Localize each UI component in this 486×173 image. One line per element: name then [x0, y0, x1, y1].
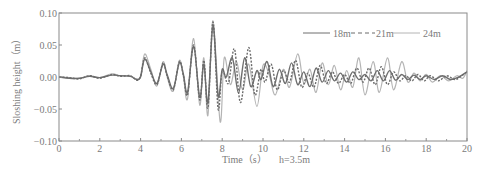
y-tick-label: 0.00	[40, 72, 58, 83]
x-tick-label: 18	[421, 143, 431, 154]
x-tick-label: 12	[299, 143, 309, 154]
x-axis-ticks: 02468101214161820	[57, 138, 473, 154]
legend-label-24m: 24m	[423, 28, 441, 39]
legend: 18m 21m 24m	[303, 28, 441, 39]
x-tick-label: 20	[462, 143, 472, 154]
x-tick-label: 14	[340, 143, 350, 154]
x-tick-label: 10	[258, 143, 268, 154]
x-tick-label: 0	[57, 143, 62, 154]
plot-series	[59, 21, 467, 123]
legend-label-18m: 18m	[333, 28, 351, 39]
y-tick-label: −0.05	[34, 104, 57, 115]
x-axis-label: Time（s）	[222, 154, 267, 165]
x-tick-label: 8	[220, 143, 225, 154]
sloshing-height-chart: 02468101214161820 0.100.050.00−0.05−0.10…	[0, 0, 486, 173]
y-axis-label: Sloshing height（m）	[11, 34, 22, 124]
x-tick-label: 2	[97, 143, 102, 154]
y-tick-label: 0.05	[40, 40, 58, 51]
depth-annotation: h=3.5m	[279, 154, 310, 165]
y-axis-ticks: 0.100.050.00−0.05−0.10	[34, 8, 62, 147]
x-tick-label: 16	[380, 143, 390, 154]
x-tick-label: 4	[138, 143, 143, 154]
y-tick-label: 0.10	[40, 8, 58, 19]
x-tick-label: 6	[179, 143, 184, 154]
y-tick-label: −0.10	[34, 136, 57, 147]
legend-label-21m: 21m	[376, 28, 394, 39]
